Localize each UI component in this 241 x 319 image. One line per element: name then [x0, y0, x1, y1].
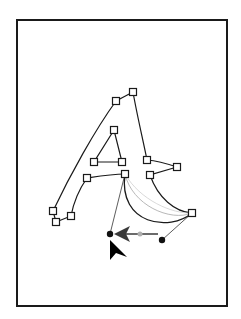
- vector-canvas[interactable]: [0, 0, 241, 319]
- glyph-inner-left-path[interactable]: [71, 174, 125, 216]
- anchor-point[interactable]: [91, 159, 98, 166]
- anchor-point[interactable]: [174, 164, 181, 171]
- anchor-point[interactable]: [144, 157, 151, 164]
- ghost-curve-2: [125, 174, 192, 213]
- glyph-right-tail-path[interactable]: [150, 167, 192, 213]
- bezier-handle-right[interactable]: [159, 237, 165, 243]
- anchor-point[interactable]: [130, 89, 137, 96]
- anchor-point[interactable]: [189, 210, 196, 217]
- glyph-outer-left-path[interactable]: [53, 92, 133, 211]
- glyph-outer-right-path[interactable]: [133, 92, 177, 167]
- anchor-point[interactable]: [113, 98, 120, 105]
- ghost-curve: [125, 174, 192, 215]
- direct-selection-cursor-icon: [110, 240, 127, 260]
- anchor-point[interactable]: [84, 175, 91, 182]
- handle-line-right: [162, 213, 192, 240]
- anchor-points[interactable]: [50, 89, 196, 226]
- anchor-point[interactable]: [119, 159, 126, 166]
- drag-origin-marker: [138, 232, 143, 237]
- handle-line-left: [110, 174, 125, 234]
- anchor-point[interactable]: [68, 213, 75, 220]
- anchor-point[interactable]: [50, 208, 57, 215]
- glyph-counter-path[interactable]: [94, 130, 122, 162]
- anchor-point[interactable]: [111, 127, 118, 134]
- bezier-handle-left[interactable]: [107, 231, 113, 237]
- anchor-point[interactable]: [53, 219, 60, 226]
- anchor-point[interactable]: [147, 172, 154, 179]
- anchor-point[interactable]: [122, 171, 129, 178]
